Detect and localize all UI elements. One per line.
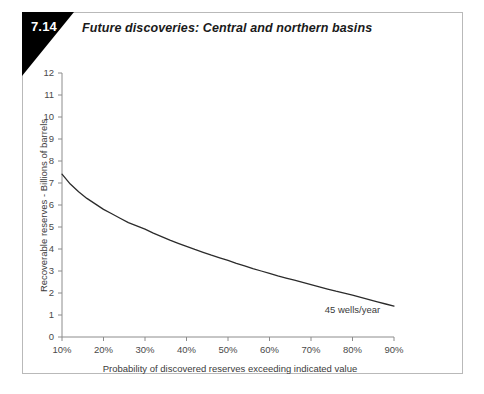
x-tick-label: 70% — [301, 344, 321, 355]
x-tick-label: 60% — [260, 344, 280, 355]
y-tick-label: 9 — [49, 133, 54, 144]
chart-annotations: 45 wells/year — [325, 304, 380, 315]
figure-container: 7.14 Future discoveries: Central and nor… — [0, 0, 484, 394]
y-tick-label: 7 — [49, 177, 54, 188]
x-tick-label: 40% — [177, 344, 197, 355]
x-axis-ticks: 10%20%30%40%50%60%70%80%90% — [52, 337, 404, 355]
y-tick-label: 8 — [49, 155, 54, 166]
x-tick-label: 20% — [94, 344, 114, 355]
reserves-curve — [62, 174, 394, 306]
y-tick-label: 4 — [49, 243, 54, 254]
y-tick-label: 2 — [49, 287, 54, 298]
y-tick-label: 0 — [49, 331, 54, 342]
x-tick-label: 30% — [135, 344, 155, 355]
x-tick-label: 50% — [218, 344, 238, 355]
y-tick-label: 12 — [43, 67, 54, 78]
x-tick-label: 80% — [343, 344, 363, 355]
data-series-group — [62, 174, 394, 306]
y-axis-label: Recoverable reserves - Billions of barre… — [38, 91, 49, 321]
x-axis-label: Probability of discovered reserves excee… — [60, 363, 400, 374]
y-tick-label: 1 — [49, 309, 54, 320]
chart-plot: 0123456789101112 10%20%30%40%50%60%70%80… — [0, 0, 484, 394]
y-tick-label: 5 — [49, 221, 54, 232]
y-tick-label: 3 — [49, 265, 54, 276]
chart-axes — [62, 73, 394, 337]
curve-annotation: 45 wells/year — [325, 304, 380, 315]
x-tick-label: 10% — [52, 344, 72, 355]
y-tick-label: 6 — [49, 199, 54, 210]
x-tick-label: 90% — [384, 344, 404, 355]
